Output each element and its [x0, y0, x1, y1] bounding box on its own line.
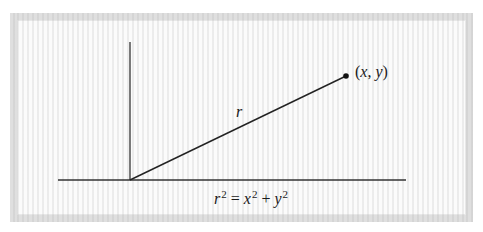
pythagorean-equation: r2 = x2 + y2: [214, 189, 288, 207]
point-label-close: ): [383, 63, 388, 80]
equation-term2-var: y: [274, 190, 281, 207]
equation-plus: +: [257, 190, 274, 207]
point-label-y: y: [375, 63, 382, 80]
equation-term1-var: x: [244, 190, 251, 207]
equation-lhs-var: r: [214, 190, 220, 207]
equation-equals: =: [227, 190, 244, 207]
point-label: (x, y): [355, 64, 388, 80]
point-marker: [343, 73, 349, 79]
equation-term2-exp: 2: [283, 188, 289, 200]
radius-line: [130, 76, 346, 180]
radius-label: r: [236, 104, 242, 120]
